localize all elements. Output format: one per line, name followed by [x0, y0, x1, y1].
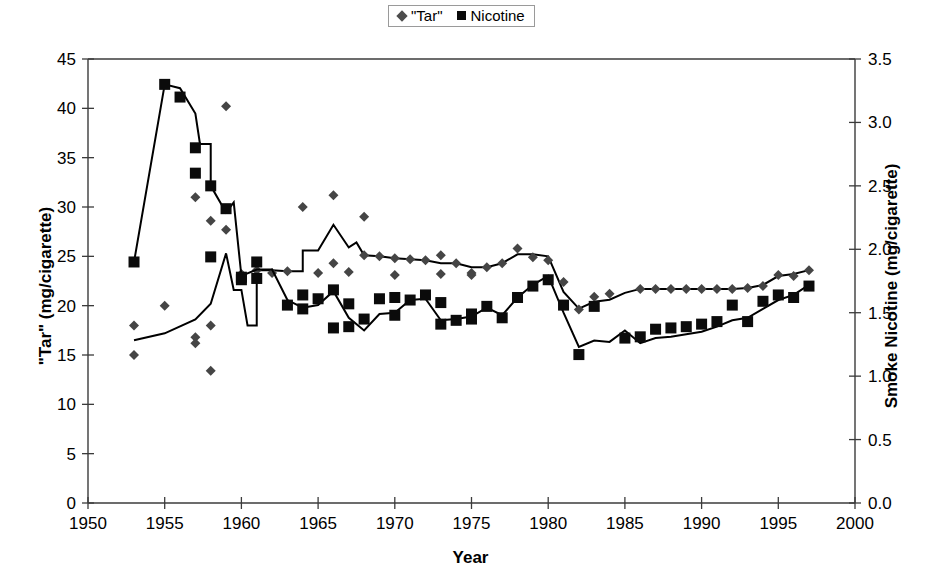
- x-axis-tick-label: 2000: [836, 514, 874, 533]
- series-tar-point: [359, 212, 369, 222]
- series-tar-point: [497, 258, 507, 268]
- x-axis-tick-label: 1990: [683, 514, 721, 533]
- series-tar-point: [436, 250, 446, 260]
- y-axis-left-tick-label: 5: [67, 445, 76, 464]
- series-nicotine-point: [543, 274, 554, 285]
- y-axis-left-tick-label: 15: [57, 346, 76, 365]
- series-nicotine-point: [527, 281, 538, 292]
- y-axis-left-title: "Tar" (mg/cigarette): [36, 156, 56, 416]
- series-nicotine-point: [205, 251, 216, 262]
- series-nicotine-point: [405, 295, 416, 306]
- y-axis-right-tick-label: 3.0: [868, 113, 892, 132]
- x-axis-tick-label: 1970: [376, 514, 414, 533]
- y-axis-left-tick-label: 30: [57, 198, 76, 217]
- series-nicotine-point: [435, 319, 446, 330]
- series-nicotine-point: [328, 284, 339, 295]
- series-tar-point: [190, 192, 200, 202]
- series-tar-point: [666, 284, 676, 294]
- series-tar-point: [635, 284, 645, 294]
- series-nicotine-point: [282, 300, 293, 311]
- y-axis-left-tick-label: 20: [57, 297, 76, 316]
- series-nicotine-point: [727, 300, 738, 311]
- series-nicotine-point: [420, 289, 431, 300]
- series-tar-point: [129, 320, 139, 330]
- series-nicotine-point: [159, 79, 170, 90]
- series-nicotine-point: [589, 301, 600, 312]
- series-tar-point: [405, 254, 415, 264]
- series-nicotine-point: [573, 349, 584, 360]
- series-tar-point: [129, 350, 139, 360]
- series-nicotine-point: [757, 296, 768, 307]
- series-nicotine-point: [711, 316, 722, 327]
- series-nicotine-point: [681, 321, 692, 332]
- series-tar-point: [697, 284, 707, 294]
- series-nicotine-point: [359, 314, 370, 325]
- series-nicotine-point: [619, 333, 630, 344]
- x-axis-tick-label: 1960: [222, 514, 260, 533]
- series-nicotine-point: [803, 281, 814, 292]
- series-nicotine-point: [512, 292, 523, 303]
- series-tar-point: [390, 270, 400, 280]
- series-nicotine-point: [343, 298, 354, 309]
- series-nicotine-point: [251, 256, 262, 267]
- x-axis-title: Year: [0, 548, 941, 568]
- series-tar-point: [374, 251, 384, 261]
- x-axis-tick-label: 1975: [453, 514, 491, 533]
- series-tar-point: [190, 338, 200, 348]
- series-tar-point: [206, 320, 216, 330]
- series-tar-point: [482, 262, 492, 272]
- series-nicotine-point: [297, 289, 308, 300]
- y-axis-left-tick-label: 35: [57, 149, 76, 168]
- series-tar-point: [344, 267, 354, 277]
- series-nicotine-point: [742, 316, 753, 327]
- series-nicotine-point: [665, 322, 676, 333]
- series-tar-point: [221, 101, 231, 111]
- series-nicotine-point: [343, 321, 354, 332]
- series-nicotine-point: [251, 273, 262, 284]
- series-tar-point: [681, 284, 691, 294]
- y-axis-right-tick-label: 3.5: [868, 50, 892, 69]
- y-axis-right-tick-label: 0.5: [868, 431, 892, 450]
- series-nicotine-point: [389, 310, 400, 321]
- x-axis-tick-label: 1980: [529, 514, 567, 533]
- x-axis-tick-label: 1965: [299, 514, 337, 533]
- series-tar-point: [743, 283, 753, 293]
- series-nicotine-point: [435, 297, 446, 308]
- series-nicotine-point: [374, 293, 385, 304]
- x-axis-tick-label: 1995: [759, 514, 797, 533]
- series-tar-point: [221, 225, 231, 235]
- series-nicotine-point: [558, 300, 569, 311]
- series-tar-point: [513, 243, 523, 253]
- series-nicotine-trend-line: [134, 84, 809, 347]
- series-tar-point: [359, 250, 369, 260]
- series-nicotine-point: [190, 142, 201, 153]
- series-tar-point: [282, 266, 292, 276]
- y-axis-left-tick-label: 40: [57, 99, 76, 118]
- series-nicotine-point: [313, 293, 324, 304]
- series-nicotine-point: [389, 292, 400, 303]
- series-nicotine-point: [696, 319, 707, 330]
- series-nicotine-point: [773, 289, 784, 300]
- y-axis-right-title: Smoke Nicotine (mg/cigarette): [882, 151, 902, 421]
- series-tar-point: [804, 265, 814, 275]
- series-tar-point: [328, 190, 338, 200]
- series-tar-point: [651, 284, 661, 294]
- series-tar-point: [451, 258, 461, 268]
- series-tar-point: [160, 301, 170, 311]
- y-axis-left-tick-label: 45: [57, 50, 76, 69]
- series-tar-point: [436, 269, 446, 279]
- series-nicotine-point: [466, 308, 477, 319]
- series-nicotine-point: [205, 180, 216, 191]
- y-axis-right-tick-label: 0.0: [868, 494, 892, 513]
- series-tar-point: [206, 216, 216, 226]
- y-axis-left-tick-label: 25: [57, 247, 76, 266]
- series-tar-point: [712, 284, 722, 294]
- series-tar-point: [328, 258, 338, 268]
- series-nicotine-point: [328, 322, 339, 333]
- y-axis-left-tick-label: 0: [67, 494, 76, 513]
- series-tar-point: [313, 268, 323, 278]
- x-axis-tick-label: 1950: [69, 514, 107, 533]
- series-tar-point: [390, 253, 400, 263]
- series-nicotine-point: [297, 303, 308, 314]
- series-nicotine-point: [788, 292, 799, 303]
